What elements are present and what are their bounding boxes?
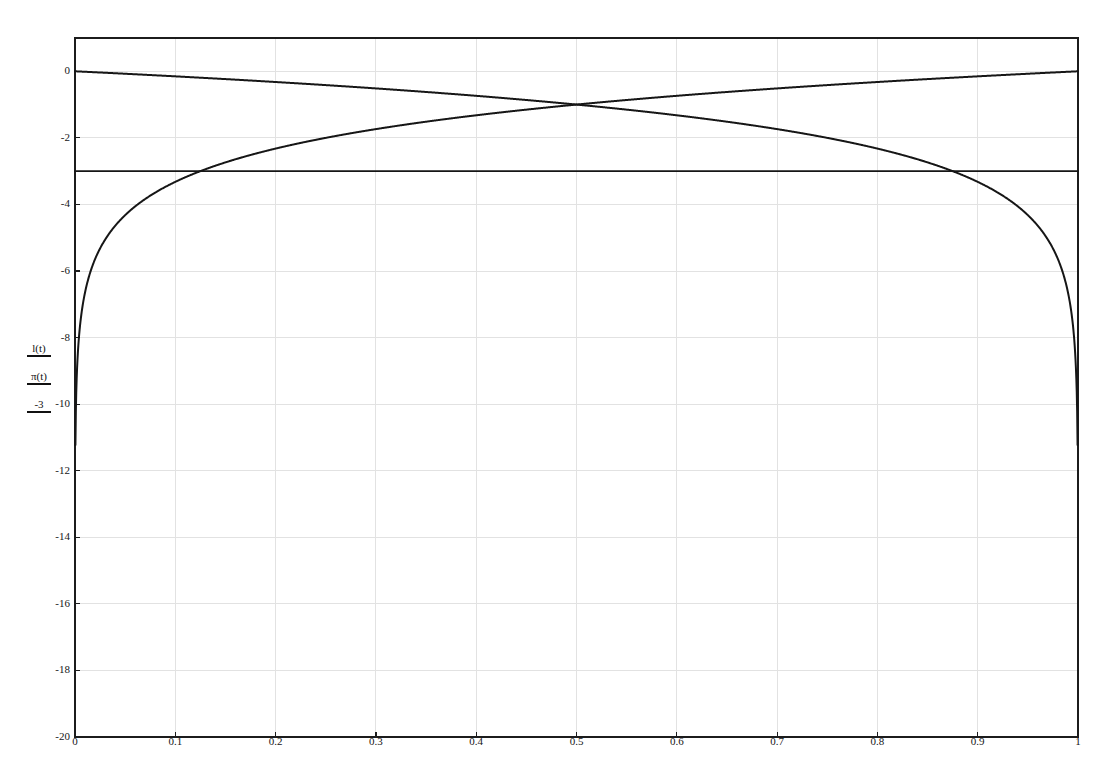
label-underline: [27, 383, 51, 385]
x-tick-label: 1: [1058, 736, 1098, 747]
chart-plot: [0, 0, 1112, 769]
y-tick-label: -14: [30, 531, 70, 542]
x-tick-labels: 00.10.20.30.40.50.60.70.80.91: [0, 736, 1112, 756]
x-tick-label: 0.6: [657, 736, 697, 747]
x-tick-label: 0: [55, 736, 95, 747]
y-tick-label: -16: [30, 598, 70, 609]
y-tick-label: -6: [30, 265, 70, 276]
y-axis-label-stack: l(t) π(t) -3: [22, 340, 56, 440]
x-tick-label: 0.3: [356, 736, 396, 747]
x-tick-label: 0.2: [256, 736, 296, 747]
y-axis-label-l-of-t: l(t): [22, 342, 56, 357]
x-tick-label: 0.5: [557, 736, 597, 747]
y-axis-label-minus-three: -3: [22, 398, 56, 413]
y-tick-label: -12: [30, 465, 70, 476]
x-tick-label: 0.7: [757, 736, 797, 747]
y-tick-label: -2: [30, 132, 70, 143]
y-tick-label: -18: [30, 664, 70, 675]
label-underline: [27, 355, 51, 357]
y-axis-label-pi-of-t: π(t): [22, 370, 56, 385]
x-tick-label: 0.1: [155, 736, 195, 747]
x-tick-label: 0.9: [958, 736, 998, 747]
y-tick-label: -4: [30, 198, 70, 209]
figure-container: 0-2-4-6-8-10-12-14-16-18-20 00.10.20.30.…: [0, 0, 1112, 769]
y-tick-label: 0: [30, 65, 70, 76]
x-tick-label: 0.8: [857, 736, 897, 747]
label-underline: [27, 411, 51, 413]
x-tick-label: 0.4: [456, 736, 496, 747]
grid-lines: [75, 38, 1078, 737]
